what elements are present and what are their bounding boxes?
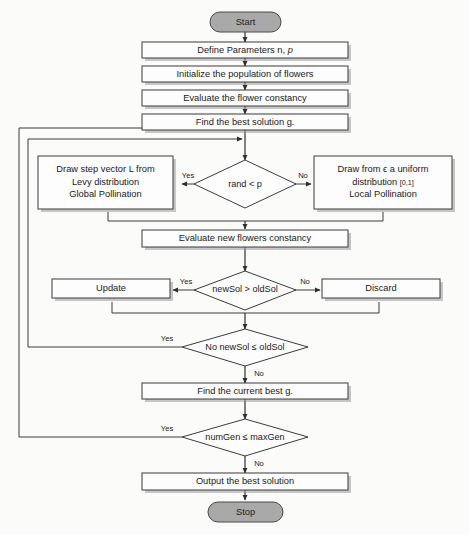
node-stop[interactable]: Stop	[208, 502, 283, 522]
node-evaluate-new-constancy-label: Evaluate new flowers constancy	[179, 233, 312, 243]
node-evaluate-constancy-label: Evaluate the flower constancy	[183, 93, 307, 103]
node-start-label: Start	[236, 17, 256, 27]
node-stop-label: Stop	[236, 507, 255, 517]
edge-local-to-merge	[245, 212, 383, 221]
node-local-pollination-line3: Local Pollination	[349, 189, 417, 199]
node-initialize-population-label: Initialize the population of flowers	[177, 69, 314, 79]
edge-label-rand-no: No	[298, 171, 308, 180]
edge-label-newsol-yes: Yes	[180, 277, 193, 286]
flowchart-canvas: Start Define Parameters n, p Initialize …	[0, 0, 469, 535]
node-initialize-population[interactable]: Initialize the population of flowers	[142, 66, 351, 85]
node-define-parameters-label: Define Parameters n, p	[197, 45, 293, 55]
node-output-best-label: Output the best solution	[196, 476, 294, 486]
edge-label-numgen-yes: Yes	[161, 424, 174, 433]
node-local-pollination[interactable]: Draw from ϵ a uniform distribution [0,1]…	[314, 156, 455, 212]
node-local-pollination-line2: distribution [0,1]	[352, 177, 414, 187]
node-numgen-decision-label: numGen ≤ maxGen	[205, 432, 284, 442]
node-define-parameters[interactable]: Define Parameters n, p	[142, 42, 351, 61]
edge-label-newsol-no: No	[300, 277, 310, 286]
node-find-current-best-label: Find the current best g-	[197, 386, 293, 397]
node-newsol-decision-label: newSol > oldSol	[212, 284, 277, 294]
node-no-newsol-decision[interactable]: No newSol ≤ oldSol	[182, 329, 308, 366]
node-update-label: Update	[96, 283, 126, 293]
node-find-best-solution[interactable]: Find the best solution g-	[142, 114, 351, 133]
edge-label-rand-yes: Yes	[182, 171, 195, 180]
flowchart-svg: Start Define Parameters n, p Initialize …	[0, 0, 469, 535]
node-rand-decision-label: rand < p	[228, 179, 262, 189]
node-global-pollination-line3: Global Pollination	[69, 189, 141, 199]
node-global-pollination-line2: Levy distribution	[72, 177, 139, 187]
node-discard-label: Discard	[365, 283, 397, 293]
node-discard[interactable]: Discard	[322, 279, 443, 301]
node-global-pollination-line1: Draw step vector L from	[56, 164, 155, 174]
node-output-best[interactable]: Output the best solution	[142, 473, 351, 493]
node-find-best-solution-label: Find the best solution g-	[196, 117, 295, 128]
node-numgen-decision[interactable]: numGen ≤ maxGen	[182, 419, 308, 456]
node-local-pollination-line1: Draw from ϵ a uniform	[338, 164, 429, 174]
edge-label-no-newsol-no: No	[254, 369, 264, 378]
edge-label-numgen-no: No	[254, 459, 264, 468]
node-rand-decision[interactable]: rand < p	[194, 160, 296, 208]
node-find-current-best[interactable]: Find the current best g-	[142, 383, 351, 402]
node-evaluate-constancy[interactable]: Evaluate the flower constancy	[142, 90, 351, 109]
edge-global-to-merge	[108, 212, 245, 221]
node-evaluate-new-constancy[interactable]: Evaluate new flowers constancy	[142, 230, 351, 250]
node-update[interactable]: Update	[52, 279, 173, 301]
node-no-newsol-decision-label: No newSol ≤ oldSol	[205, 342, 284, 352]
node-global-pollination[interactable]: Draw step vector L from Levy distributio…	[38, 156, 176, 212]
node-newsol-decision[interactable]: newSol > oldSol	[194, 271, 296, 310]
edge-update-to-merge	[112, 302, 245, 313]
node-start[interactable]: Start	[210, 12, 281, 32]
edge-label-no-newsol-yes: Yes	[161, 334, 174, 343]
edge-discard-to-merge	[245, 302, 379, 313]
